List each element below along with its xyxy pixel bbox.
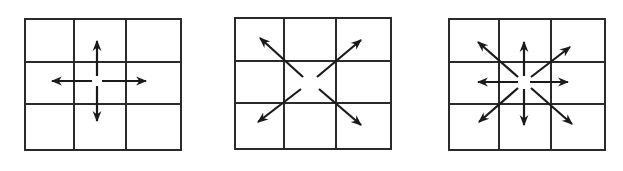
arrow-up-right-icon: [317, 40, 361, 77]
arrows-four: [52, 41, 146, 121]
grid-3x3: [449, 19, 605, 150]
arrow-down-right-icon: [319, 89, 361, 125]
arrows-diagonal: [258, 38, 361, 125]
arrows-eight: [478, 42, 572, 125]
grid-3x3: [25, 19, 181, 150]
arrow-down-left-icon: [258, 89, 301, 122]
neighborhood-diagram: [0, 0, 623, 171]
panel-eight-neighborhood: [449, 19, 605, 150]
arrow-up-left-icon: [260, 38, 303, 77]
panel-diagonal-neighborhood: [235, 18, 391, 149]
panel-four-neighborhood: [25, 19, 181, 150]
grid-3x3: [235, 18, 391, 149]
